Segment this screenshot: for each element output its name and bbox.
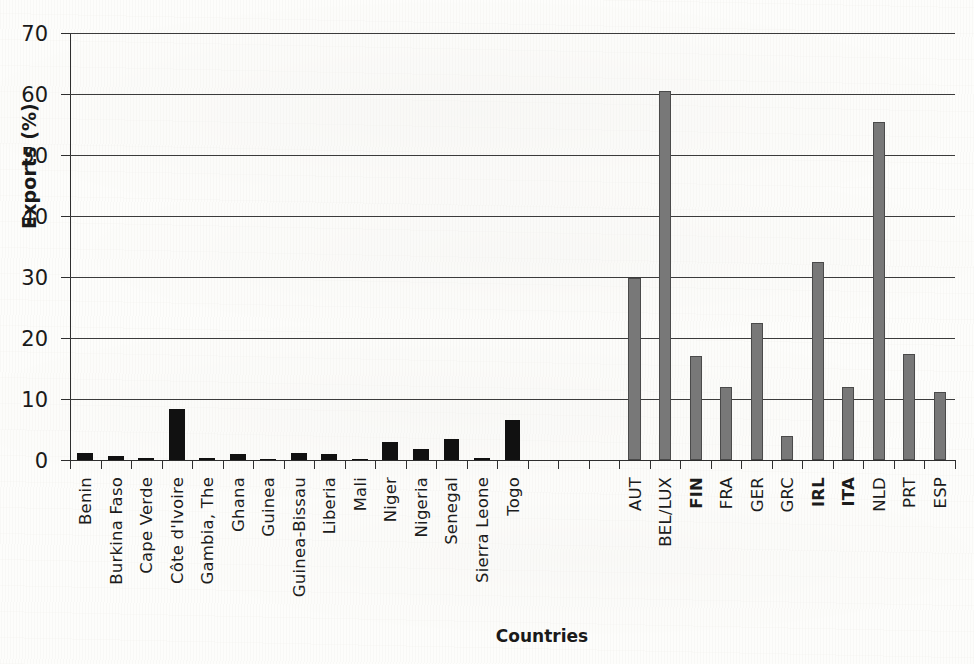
- x-category-label-sierra-leone: Sierra Leone: [473, 477, 492, 583]
- x-tick: [70, 460, 71, 469]
- x-tick: [833, 460, 834, 469]
- bar-fra: [720, 387, 732, 460]
- y-tick-label: 70: [21, 22, 48, 46]
- x-category-label-guinea: Guinea: [259, 477, 278, 537]
- y-tick-label: 60: [21, 83, 48, 107]
- bar-irl: [812, 262, 824, 460]
- x-category-label-nigeria: Nigeria: [412, 477, 431, 537]
- x-tick: [101, 460, 102, 469]
- x-category-label-burkina-faso: Burkina Faso: [107, 477, 126, 585]
- x-category-label-niger: Niger: [381, 477, 400, 522]
- x-tick: [345, 460, 346, 469]
- y-tick-label: 50: [21, 144, 48, 168]
- plot-area: 010203040506070 BeninBurkina FasoCape Ve…: [70, 33, 955, 460]
- x-tick: [894, 460, 895, 469]
- x-tick: [589, 460, 590, 469]
- x-tick: [680, 460, 681, 469]
- x-category-label-fra: FRA: [717, 477, 736, 509]
- y-tick-40: 40: [61, 216, 70, 217]
- x-category-label-benin: Benin: [76, 477, 95, 525]
- bar-ita: [842, 387, 854, 460]
- x-tick: [162, 460, 163, 469]
- x-category-label-gambia-the: Gambia, The: [198, 477, 217, 585]
- bar-senegal: [444, 439, 460, 460]
- x-tick: [863, 460, 864, 469]
- x-tick: [314, 460, 315, 469]
- bar-nld: [873, 122, 885, 460]
- x-tick: [619, 460, 620, 469]
- x-category-label-ita: ITA: [839, 477, 858, 506]
- x-tick: [924, 460, 925, 469]
- gridline-70: [70, 33, 955, 34]
- x-category-label-c-te-d-ivoire: Côte d'Ivoire: [168, 477, 187, 584]
- x-tick: [375, 460, 376, 469]
- bar-aut: [628, 278, 640, 460]
- x-tick: [772, 460, 773, 469]
- gridline-60: [70, 94, 955, 95]
- y-axis-line: [70, 33, 71, 460]
- x-tick: [223, 460, 224, 469]
- x-category-label-liberia: Liberia: [320, 477, 339, 534]
- bar-benin: [77, 453, 93, 460]
- y-tick-20: 20: [61, 338, 70, 339]
- bar-bel-lux: [659, 91, 671, 460]
- y-tick-label: 0: [35, 449, 48, 473]
- x-tick: [955, 460, 956, 469]
- y-tick-0: 0: [61, 460, 70, 461]
- bar-prt: [903, 354, 915, 460]
- x-category-label-ger: GER: [748, 477, 767, 512]
- bar-c-te-d-ivoire: [169, 409, 185, 460]
- x-tick: [436, 460, 437, 469]
- x-category-label-esp: ESP: [931, 477, 950, 508]
- y-tick-10: 10: [61, 399, 70, 400]
- x-category-label-bel-lux: BEL/LUX: [656, 477, 675, 547]
- x-tick: [497, 460, 498, 469]
- x-category-label-prt: PRT: [900, 477, 919, 508]
- y-tick-30: 30: [61, 277, 70, 278]
- y-tick-70: 70: [61, 33, 70, 34]
- x-category-label-grc: GRC: [778, 477, 797, 513]
- bar-ger: [751, 323, 763, 460]
- x-axis-line: [70, 460, 955, 461]
- y-tick-50: 50: [61, 155, 70, 156]
- y-tick-label: 40: [21, 205, 48, 229]
- x-category-label-irl: IRL: [809, 477, 828, 507]
- y-tick-label: 10: [21, 388, 48, 412]
- bar-togo: [505, 420, 521, 460]
- y-tick-60: 60: [61, 94, 70, 95]
- x-category-label-fin: FIN: [687, 477, 706, 509]
- x-tick: [802, 460, 803, 469]
- x-category-label-togo: Togo: [504, 477, 523, 516]
- x-category-label-nld: NLD: [870, 477, 889, 512]
- y-tick-label: 30: [21, 266, 48, 290]
- x-category-label-aut: AUT: [626, 477, 645, 511]
- x-tick: [192, 460, 193, 469]
- bar-nigeria: [413, 449, 429, 460]
- y-tick-label: 20: [21, 327, 48, 351]
- x-category-label-ghana: Ghana: [229, 477, 248, 532]
- x-tick: [284, 460, 285, 469]
- x-tick: [528, 460, 529, 469]
- x-tick: [741, 460, 742, 469]
- gridline-40: [70, 216, 955, 217]
- bar-guinea-bissau: [291, 453, 307, 460]
- x-category-label-senegal: Senegal: [442, 477, 461, 545]
- x-tick: [406, 460, 407, 469]
- x-tick: [558, 460, 559, 469]
- x-tick: [253, 460, 254, 469]
- bar-esp: [934, 392, 946, 460]
- gridline-50: [70, 155, 955, 156]
- x-tick: [650, 460, 651, 469]
- x-tick: [467, 460, 468, 469]
- x-axis-title: Countries: [0, 626, 974, 646]
- bar-grc: [781, 436, 793, 460]
- x-category-label-guinea-bissau: Guinea-Bissau: [290, 477, 309, 597]
- x-tick: [131, 460, 132, 469]
- bar-fin: [690, 356, 702, 460]
- x-category-label-cape-verde: Cape Verde: [137, 477, 156, 574]
- x-tick: [711, 460, 712, 469]
- bar-niger: [382, 442, 398, 460]
- bar-chart: Exports (%) 010203040506070 BeninBurkina…: [0, 0, 974, 664]
- x-category-label-mali: Mali: [351, 477, 370, 511]
